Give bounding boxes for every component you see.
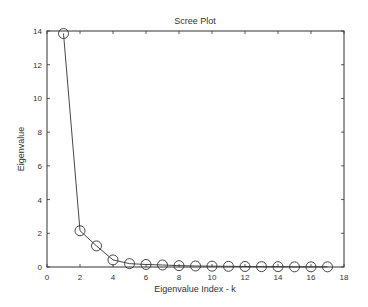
x-tick-label: 4 bbox=[111, 273, 116, 282]
x-tick-label: 16 bbox=[307, 273, 316, 282]
x-tick-label: 6 bbox=[144, 273, 149, 282]
y-tick-label: 4 bbox=[38, 196, 43, 205]
y-tick-label: 14 bbox=[33, 27, 42, 36]
x-tick-label: 14 bbox=[274, 273, 283, 282]
x-tick-label: 18 bbox=[340, 273, 349, 282]
x-tick-label: 0 bbox=[45, 273, 50, 282]
y-tick-label: 6 bbox=[38, 162, 43, 171]
x-tick-label: 2 bbox=[78, 273, 83, 282]
axis-ticks: 02468101214161802468101214 bbox=[33, 27, 349, 282]
chart-title: Scree Plot bbox=[174, 16, 216, 26]
y-tick-label: 10 bbox=[33, 94, 42, 103]
series-line bbox=[64, 34, 328, 267]
y-tick-label: 8 bbox=[38, 128, 43, 137]
data-series bbox=[59, 29, 333, 272]
x-tick-label: 10 bbox=[208, 273, 217, 282]
x-tick-label: 12 bbox=[241, 273, 250, 282]
y-tick-label: 0 bbox=[38, 263, 43, 272]
y-tick-label: 2 bbox=[38, 229, 43, 238]
y-axis-label: Eigenvalue bbox=[16, 127, 26, 172]
x-axis-label: Eigenvalue Index - k bbox=[154, 284, 236, 294]
x-tick-label: 8 bbox=[177, 273, 182, 282]
scree-plot-chart: 02468101214161802468101214 Scree Plot Ei… bbox=[0, 0, 368, 307]
y-tick-label: 12 bbox=[33, 61, 42, 70]
axes-box bbox=[47, 31, 344, 267]
